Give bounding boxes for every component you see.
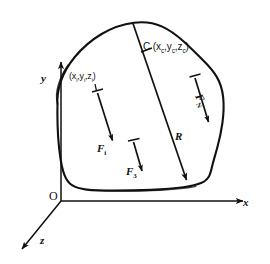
z-axis-label: z	[40, 235, 44, 246]
y-axis-label: y	[41, 73, 46, 84]
element-paren-close: )	[93, 71, 96, 81]
element-leader-line	[95, 84, 97, 91]
axis-group	[22, 62, 243, 249]
centroid-paren-close: )	[186, 41, 189, 52]
element-point-label: (xi,yi,zi)	[69, 72, 96, 83]
force-vector-Fi	[92, 89, 113, 141]
x-axis-label: x	[243, 197, 249, 208]
diagram-svg	[0, 0, 270, 264]
origin-label: O	[49, 190, 58, 202]
Fi-tail-tick	[92, 89, 103, 92]
centroid-label: C (xc,yc,zc)	[143, 42, 189, 55]
Fi-arrow-line	[98, 93, 113, 141]
FN-tail-tick	[190, 74, 201, 77]
F3-tail-tick	[128, 139, 140, 142]
element-point-leader	[95, 84, 97, 91]
resultant-label-R: R	[175, 131, 182, 142]
force-label-Fi: Fi	[97, 143, 106, 157]
F3-subscript: 3	[133, 172, 137, 180]
force-label-F3: F3	[126, 166, 137, 180]
figure-canvas: y x z O C (xc,yc,zc) (xi,yi,zi) Fi F3 FN…	[0, 0, 270, 264]
Fi-subscript: i	[104, 149, 106, 157]
